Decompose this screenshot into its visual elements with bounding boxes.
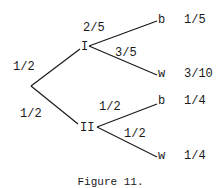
joint-prob-II-w: 1/4 <box>184 150 206 162</box>
node-II: II <box>80 122 94 134</box>
prob-II-b: 1/2 <box>99 101 121 113</box>
node-I: I <box>81 41 88 53</box>
outcome-II-w: w <box>158 150 165 162</box>
joint-prob-II-b: 1/4 <box>184 95 206 107</box>
joint-prob-I-b: 1/5 <box>184 14 206 26</box>
prob-I-w: 3/5 <box>115 47 137 59</box>
edge-root-to-I <box>31 49 80 86</box>
joint-prob-I-w: 3/10 <box>184 68 213 80</box>
figure-caption: Figure 11. <box>0 176 221 188</box>
outcome-I-w: w <box>158 68 165 80</box>
prob-II-w: 1/2 <box>124 128 146 140</box>
outcome-I-b: b <box>158 14 165 26</box>
outcome-II-b: b <box>158 95 165 107</box>
prob-I-b: 2/5 <box>83 22 105 34</box>
prob-root-I: 1/2 <box>13 61 35 73</box>
prob-root-II: 1/2 <box>20 108 42 120</box>
